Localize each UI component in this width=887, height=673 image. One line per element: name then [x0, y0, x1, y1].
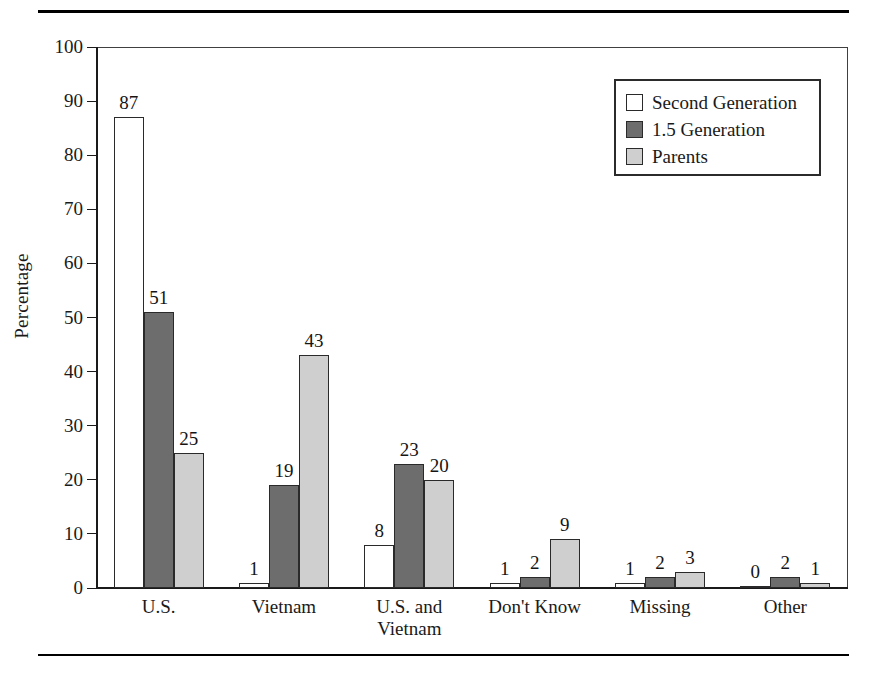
y-axis-tick-label: 90 [37, 91, 83, 110]
y-axis-tick [87, 533, 97, 534]
legend-item-label: Second Generation [652, 93, 797, 112]
y-axis-tick-label: 80 [37, 145, 83, 164]
y-axis-tick-label: 10 [37, 524, 83, 543]
bar [490, 583, 520, 588]
y-axis-tick [87, 317, 97, 318]
figure-bar-chart: 0102030405060708090100 Percentage 875125… [0, 0, 887, 673]
bar-value-label: 3 [665, 548, 715, 567]
bar-value-label: 9 [540, 515, 590, 534]
y-axis-tick-label: 50 [37, 308, 83, 327]
y-axis-tick [87, 371, 97, 372]
y-axis-tick-label: 60 [37, 253, 83, 272]
bar-value-label: 87 [104, 93, 154, 112]
y-axis-title: Percentage [11, 236, 33, 356]
y-axis-tick [87, 479, 97, 480]
bar [424, 480, 454, 588]
bar [645, 577, 675, 588]
y-axis-tick-label: 70 [37, 199, 83, 218]
y-axis-tick [87, 263, 97, 264]
bar [364, 545, 394, 588]
bar [239, 583, 269, 588]
y-axis-line [96, 47, 98, 589]
bar [520, 577, 550, 588]
bar [740, 586, 770, 588]
y-axis-tick [87, 155, 97, 156]
bar [550, 539, 580, 588]
legend-item-label: 1.5 Generation [652, 120, 765, 139]
y-axis-tick-label: 40 [37, 362, 83, 381]
y-axis-tick [87, 425, 97, 426]
legend-swatch-icon [626, 148, 643, 165]
bar-value-label: 20 [414, 456, 464, 475]
y-axis-tick [87, 47, 97, 48]
top-rule [38, 10, 849, 13]
bar [394, 464, 424, 588]
bottom-rule [38, 654, 849, 656]
bar [269, 485, 299, 588]
bar [299, 355, 329, 588]
bar [770, 577, 800, 588]
y-axis-tick-label: 30 [37, 416, 83, 435]
y-axis-tick-label: 20 [37, 470, 83, 489]
y-axis-tick [87, 101, 97, 102]
bar [114, 117, 144, 588]
legend-item: Parents [626, 143, 819, 170]
y-axis-tick [87, 209, 97, 210]
legend-item: 1.5 Generation [626, 116, 819, 143]
legend-item: Second Generation [626, 89, 819, 116]
y-axis-tick [87, 588, 97, 589]
bar-value-label: 1 [790, 559, 840, 578]
y-axis-tick-label: 0 [37, 578, 83, 597]
bar [615, 583, 645, 588]
bar [144, 312, 174, 588]
bar [174, 453, 204, 588]
legend-swatch-icon [626, 94, 643, 111]
chart-legend: Second Generation1.5 GenerationParents [614, 79, 821, 176]
bar [675, 572, 705, 588]
bar-value-label: 51 [134, 288, 184, 307]
legend-item-label: Parents [652, 147, 708, 166]
x-axis-category-label: Other [710, 596, 860, 618]
x-axis-baseline [96, 587, 848, 589]
y-axis-tick-label: 100 [37, 37, 83, 56]
legend-swatch-icon [626, 121, 643, 138]
bar [800, 583, 830, 588]
bar-value-label: 25 [164, 429, 214, 448]
bar-value-label: 43 [289, 331, 339, 350]
